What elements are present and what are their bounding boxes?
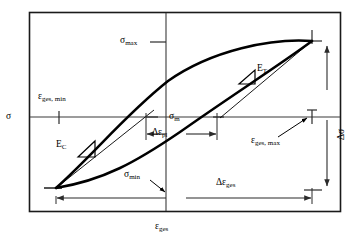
y-axis-label: σ: [6, 112, 11, 122]
delta-sigma-label: Δσ: [337, 129, 347, 140]
ec-label: EC: [56, 140, 67, 151]
eps-ges-min-label: εges, min: [38, 92, 66, 103]
eps-ges-max-label: εges, max: [251, 136, 280, 147]
plot-frame: [30, 13, 341, 212]
delta-eps-pl-label: Δεpl: [152, 128, 168, 139]
et-label: ET: [257, 64, 267, 75]
sigma-max-label: σmax: [120, 36, 137, 47]
sigma-min-label: σmin: [124, 170, 140, 181]
hysteresis-diagram: σ σmax εges, min σm Δεpl ET EC εges, max…: [0, 0, 359, 244]
delta-eps-ges-label: Δεges: [216, 178, 235, 189]
sigma-m-label: σm: [169, 112, 180, 123]
x-axis-label: εges: [155, 222, 168, 233]
